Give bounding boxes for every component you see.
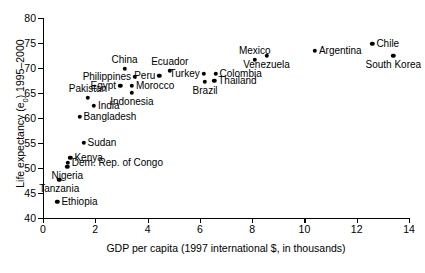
- data-point: [212, 78, 216, 82]
- x-tick-label-14: 14: [394, 224, 424, 235]
- data-point-label: Bangladesh: [84, 112, 137, 122]
- data-point-label: Peru: [134, 71, 155, 81]
- data-point-label: Indonesia: [110, 97, 153, 107]
- data-point: [86, 96, 90, 100]
- x-tick-label-2: 2: [80, 224, 110, 235]
- data-point: [213, 71, 217, 75]
- data-point-label: Sudan: [88, 138, 117, 148]
- data-point: [203, 80, 207, 84]
- data-point: [157, 74, 161, 78]
- data-point-label: China: [111, 55, 137, 65]
- data-point-label: Colombia: [220, 69, 262, 79]
- data-point-label: Brazil: [193, 86, 218, 96]
- y-tick-80: [38, 18, 43, 19]
- x-tick-label-8: 8: [237, 224, 267, 235]
- x-tick-label-10: 10: [289, 224, 319, 235]
- data-point: [65, 164, 69, 168]
- scatter-chart: 404550556065707580 02468101214 Life expe…: [0, 0, 425, 273]
- data-point: [313, 48, 317, 52]
- data-point-label: Tanzania: [39, 184, 79, 194]
- y-tick-75: [38, 43, 43, 44]
- data-point: [77, 114, 81, 118]
- data-point-label: Kenya: [74, 153, 102, 163]
- y-tick-55: [38, 143, 43, 144]
- data-point: [66, 161, 70, 165]
- x-tick-label-12: 12: [342, 224, 372, 235]
- x-axis-title: GDP per capita (1997 international $, in…: [43, 243, 409, 254]
- data-point-label: Ecuador: [151, 57, 188, 67]
- y-tick-60: [38, 118, 43, 119]
- y-axis-title: Life expectancy (e0) 1995–2000: [15, 14, 30, 214]
- data-point: [55, 200, 59, 204]
- data-point-label: Turkey: [170, 69, 200, 79]
- y-tick-50: [38, 168, 43, 169]
- data-point: [391, 54, 395, 58]
- data-point-label: Argentina: [319, 46, 362, 56]
- data-point: [130, 83, 134, 87]
- y-tick-70: [38, 68, 43, 69]
- data-point: [92, 103, 96, 107]
- data-point: [264, 53, 268, 57]
- data-point-label: Egypt: [91, 81, 117, 91]
- data-point: [370, 42, 374, 46]
- data-point-label: Venezuela: [243, 60, 290, 70]
- data-point-label: Morocco: [136, 81, 174, 91]
- x-tick-label-6: 6: [185, 224, 215, 235]
- y-tick-label-40: 40: [0, 213, 36, 224]
- x-tick-label-4: 4: [133, 224, 163, 235]
- y-tick-65: [38, 93, 43, 94]
- data-point-label: Nigeria: [51, 171, 83, 181]
- x-tick-label-0: 0: [28, 224, 58, 235]
- data-point-label: Chile: [376, 39, 399, 49]
- x-axis-line: [43, 218, 409, 219]
- data-point: [202, 71, 206, 75]
- data-point-label: South Korea: [366, 60, 422, 70]
- data-point: [81, 141, 85, 145]
- data-point-label: Philippines: [83, 72, 131, 82]
- data-point: [130, 90, 134, 94]
- data-point: [118, 83, 122, 87]
- data-point-label: Ethiopia: [61, 197, 97, 207]
